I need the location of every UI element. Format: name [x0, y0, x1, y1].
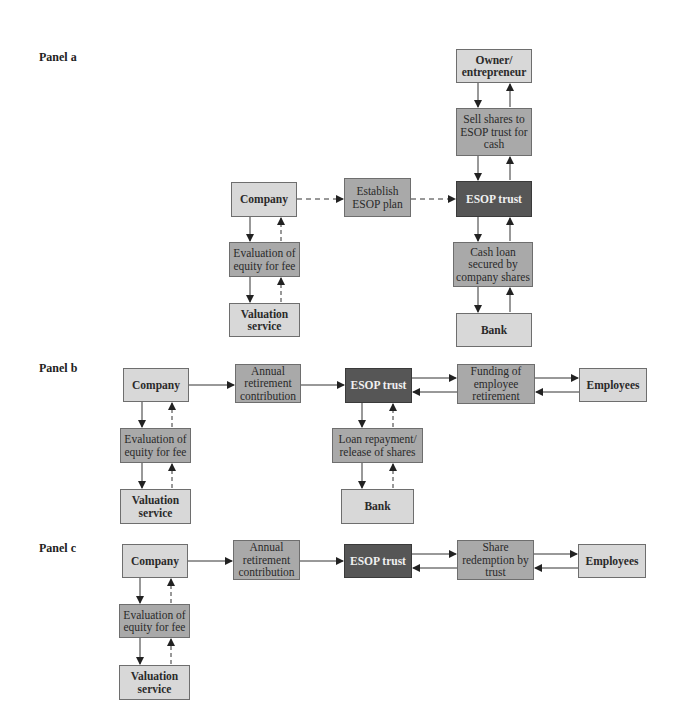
node-establish-esop-plan: Establish ESOP plan	[344, 178, 411, 217]
node-valuation-service: Valuation service	[229, 303, 300, 337]
node-loan-repayment: Loan repayment/ release of shares	[332, 428, 423, 463]
node-owner-entrepreneur: Owner/ entrepreneur	[456, 49, 532, 83]
node-cash-loan: Cash loan secured by company shares	[453, 242, 533, 287]
node-esop-trust: ESOP trust	[345, 368, 412, 403]
node-bank: Bank	[456, 313, 532, 347]
node-evaluation-of-equity: Evaluation of equity for fee	[120, 428, 191, 463]
node-valuation-service: Valuation service	[119, 665, 190, 700]
node-company: Company	[122, 544, 188, 578]
node-employees: Employees	[578, 544, 646, 578]
node-company: Company	[231, 182, 297, 217]
node-sell-shares: Sell shares to ESOP trust for cash	[456, 108, 532, 156]
node-employees: Employees	[579, 368, 647, 402]
node-evaluation-of-equity: Evaluation of equity for fee	[119, 604, 190, 638]
node-bank: Bank	[341, 489, 414, 524]
node-annual-retirement-contribution: Annual retirement contribution	[235, 364, 301, 403]
node-evaluation-of-equity: Evaluation of equity for fee	[229, 242, 300, 277]
node-share-redemption: Share redemption by trust	[457, 540, 534, 580]
node-esop-trust: ESOP trust	[344, 544, 412, 578]
node-funding-employee-retirement: Funding of employee retirement	[457, 364, 535, 404]
arrows-layer	[0, 0, 676, 711]
node-esop-trust: ESOP trust	[456, 181, 532, 217]
node-company: Company	[123, 368, 189, 402]
node-valuation-service: Valuation service	[120, 489, 191, 524]
node-annual-retirement-contribution: Annual retirement contribution	[233, 540, 300, 580]
